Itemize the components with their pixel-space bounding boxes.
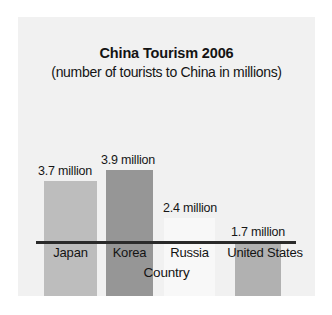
chart-panel: China Tourism 2006 (number of tourists t…	[18, 17, 315, 296]
bar-label-united-states: 1.7 million	[231, 225, 285, 239]
bar-label-korea: 3.9 million	[101, 153, 155, 167]
bar-label-japan: 3.7 million	[38, 164, 92, 178]
bar-group-korea: 3.9 million	[106, 72, 153, 296]
x-tick-label-united-states: United States	[221, 245, 309, 260]
x-axis-line	[36, 241, 296, 244]
bar-group-russia: 2.4 million	[164, 72, 215, 296]
bar-group-united-states: 1.7 million	[235, 72, 281, 296]
plot-area: 3.7 million 3.9 million 2.4 million 1.7 …	[18, 17, 315, 296]
x-tick-label-russia: Russia	[164, 245, 215, 260]
bar-label-russia: 2.4 million	[163, 201, 217, 215]
x-tick-label-korea: Korea	[106, 245, 153, 260]
chart-figure: China Tourism 2006 (number of tourists t…	[0, 0, 332, 315]
bar-group-japan: 3.7 million	[44, 72, 97, 296]
x-tick-label-japan: Japan	[44, 245, 97, 260]
x-axis-title: Country	[18, 265, 315, 280]
